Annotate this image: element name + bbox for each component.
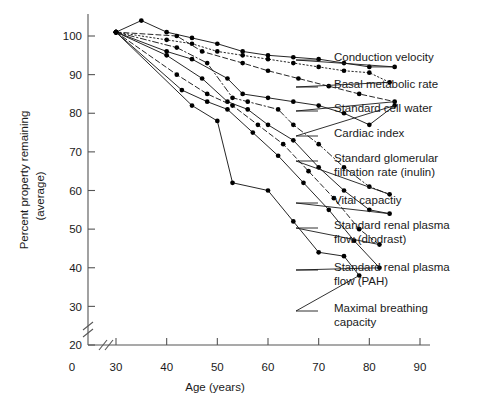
y-axis-tick-label: 80 <box>69 107 82 119</box>
data-point-marker <box>230 103 235 108</box>
data-point-marker <box>276 107 281 112</box>
data-point-marker <box>291 219 296 224</box>
series-callout: Cardiac index <box>334 127 405 139</box>
data-point-marker <box>164 38 169 43</box>
figure-container: 2030405060708090100 30405060708090 0 Age… <box>0 0 480 411</box>
data-point-marker <box>205 61 210 66</box>
data-point-marker <box>190 57 195 62</box>
data-point-marker <box>316 142 321 147</box>
data-point-marker <box>230 95 235 100</box>
data-point-marker <box>316 65 321 70</box>
data-point-marker <box>266 188 271 193</box>
data-point-marker <box>316 250 321 255</box>
data-point-marker <box>256 122 261 127</box>
data-point-marker <box>215 119 220 124</box>
series-callout-label: Standard cell water <box>334 102 433 114</box>
data-point-marker <box>200 76 205 81</box>
series-callout-label: Standard renal plasma <box>334 219 450 231</box>
series-callout: Basal metabolic rate <box>334 78 438 90</box>
data-point-marker <box>357 92 362 97</box>
data-point-marker <box>225 76 230 81</box>
y-axis-tick-label: 90 <box>69 69 82 81</box>
data-point-marker <box>250 130 255 135</box>
data-point-marker <box>180 88 185 93</box>
data-point-marker <box>230 180 235 185</box>
y-axis-tick-label: 40 <box>69 262 82 274</box>
data-point-marker <box>245 99 250 104</box>
series-callout-label: Standard glomerular <box>334 152 438 164</box>
x-axis-tick-label: 60 <box>262 361 275 373</box>
y-axis-tick-label: 50 <box>69 223 82 235</box>
data-point-marker <box>316 57 321 62</box>
y-axis-tick-label: 60 <box>69 185 82 197</box>
series-callout-label: Conduction velocity <box>334 51 434 63</box>
data-point-marker <box>225 107 230 112</box>
data-point-marker <box>190 103 195 108</box>
data-point-marker <box>296 76 301 81</box>
series-callout-label: filtration rate (inulin) <box>334 166 435 178</box>
data-point-marker <box>291 99 296 104</box>
data-point-marker <box>164 30 169 35</box>
data-point-marker <box>114 30 119 35</box>
data-point-marker <box>342 68 347 73</box>
data-point-marker <box>139 18 144 23</box>
y-axis-title-line2: (average) <box>34 171 46 220</box>
data-point-marker <box>245 107 250 112</box>
series-callout-label: Vital capactiy <box>334 194 402 206</box>
series-callout-label: Standard renal plasma <box>334 261 450 273</box>
x-axis-tick-label: 40 <box>160 361 173 373</box>
data-point-marker <box>326 84 331 89</box>
x-axis-title: Age (years) <box>185 381 245 393</box>
data-point-marker <box>240 61 245 66</box>
series-callout-label: flow (PAH) <box>334 275 388 287</box>
series-callout-label: Cardiac index <box>334 127 405 139</box>
data-point-marker <box>215 41 220 46</box>
data-point-marker <box>266 57 271 62</box>
data-point-marker <box>205 99 210 104</box>
x-axis-tick-label: 50 <box>211 361 224 373</box>
data-point-marker <box>291 138 296 143</box>
series-callout-label: Maximal breathing <box>334 302 428 314</box>
data-point-marker <box>316 103 321 108</box>
data-point-marker <box>306 169 311 174</box>
data-point-marker <box>205 92 210 97</box>
series-callout-label: Basal metabolic rate <box>334 78 438 90</box>
y-axis-title-line1: Percent property remaining <box>18 111 30 250</box>
data-point-marker <box>190 36 195 41</box>
y-axis-tick-label: 100 <box>63 30 82 42</box>
x-axis-tick-label: 70 <box>312 361 325 373</box>
data-point-marker <box>200 49 205 54</box>
data-point-marker <box>164 53 169 58</box>
data-point-marker <box>174 45 179 50</box>
aging-physiology-line-chart: 2030405060708090100 30405060708090 0 Age… <box>0 0 480 411</box>
data-point-marker <box>240 53 245 58</box>
data-point-marker <box>266 68 271 73</box>
data-point-marker <box>174 34 179 39</box>
data-point-marker <box>291 55 296 60</box>
x-axis-tick-label: 30 <box>110 361 123 373</box>
x-axis-tick-label: 80 <box>363 361 376 373</box>
series-callout-label: capacity <box>334 316 376 328</box>
data-point-marker <box>215 49 220 54</box>
x-axis-origin-label: 0 <box>69 361 75 373</box>
data-point-marker <box>367 70 372 75</box>
y-axis-tick-label: 20 <box>69 339 82 351</box>
data-point-marker <box>276 153 281 158</box>
data-point-marker <box>342 254 347 259</box>
data-point-marker <box>291 61 296 66</box>
data-point-marker <box>326 207 331 212</box>
data-point-marker <box>266 95 271 100</box>
data-point-marker <box>342 188 347 193</box>
x-axis-tick-label: 90 <box>414 361 427 373</box>
y-axis-tick-label: 70 <box>69 146 82 158</box>
data-point-marker <box>281 142 286 147</box>
data-point-marker <box>174 72 179 77</box>
series-callout: Conduction velocity <box>334 51 434 63</box>
data-point-marker <box>240 92 245 97</box>
series-callout: Standard cell water <box>334 102 433 114</box>
series-callout: Vital capactiy <box>334 194 402 206</box>
data-point-marker <box>301 180 306 185</box>
data-point-marker <box>266 122 271 127</box>
series-callout-label: flow (diodrast) <box>334 233 406 245</box>
y-axis-tick-label: 30 <box>69 301 82 313</box>
